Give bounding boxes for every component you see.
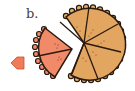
arrow-left-icon	[11, 57, 24, 69]
pie-illustration	[0, 0, 135, 91]
removed-pie-piece	[33, 27, 73, 79]
remaining-pie	[60, 4, 126, 82]
